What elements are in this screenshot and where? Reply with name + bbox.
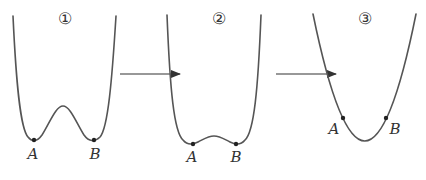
panel-1-point-a [32, 138, 36, 142]
panel-1-number: ① [58, 9, 72, 28]
panel-3: ③ A B [313, 9, 416, 141]
panel-3-point-a [341, 116, 345, 120]
panel-2-label-b: B [229, 148, 241, 166]
panel-2-number: ② [212, 9, 226, 28]
panel-1-label-a: A [26, 145, 39, 163]
panel-3-number: ③ [358, 9, 372, 28]
panel-2-label-a: A [185, 148, 198, 166]
panel-3-label-a: A [327, 120, 340, 138]
panel-3-label-b: B [388, 120, 400, 138]
panel-1-point-b [92, 138, 96, 142]
panel-1-curve [13, 16, 116, 141]
panel-2: ② A B [167, 9, 261, 166]
panel-2-point-a [191, 142, 195, 146]
panel-1: ① A B [13, 9, 116, 163]
panel-3-point-b [384, 116, 388, 120]
panel-2-curve [167, 15, 261, 144]
potential-diagram: ① A B ② A B ③ A B [0, 0, 426, 180]
panel-1-label-b: B [88, 145, 100, 163]
panel-2-point-b [234, 142, 238, 146]
